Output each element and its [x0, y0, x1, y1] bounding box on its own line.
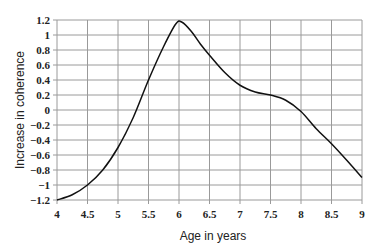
line-chart: 1.210.80.60.40.20−0.2−0.4−0.6−0.8−1−1.2 … — [0, 0, 381, 249]
y-tick-label: 0.6 — [36, 59, 50, 71]
x-tick-label: 6 — [176, 208, 182, 220]
y-tick-label: −1.2 — [30, 194, 51, 206]
x-tick-label: 7 — [237, 208, 243, 220]
y-tick-label: 0.2 — [36, 89, 50, 101]
y-axis-ticks: 1.210.80.60.40.20−0.2−0.4−0.6−0.8−1−1.2 — [30, 14, 51, 206]
x-tick-label: 5 — [115, 208, 121, 220]
x-tick-label: 7.5 — [264, 208, 278, 220]
x-tick-label: 6.5 — [203, 208, 217, 220]
y-tick-label: 1 — [45, 29, 51, 41]
y-tick-label: −0.2 — [30, 119, 51, 131]
y-axis-label: Increase in coherence — [13, 51, 27, 169]
y-tick-label: 0 — [45, 104, 51, 116]
x-tick-label: 5.5 — [142, 208, 156, 220]
y-tick-label: −0.8 — [30, 164, 51, 176]
x-tick-label: 8 — [298, 208, 304, 220]
y-tick-label: −0.4 — [30, 134, 51, 146]
y-tick-label: 0.8 — [36, 44, 50, 56]
x-tick-label: 4 — [54, 208, 60, 220]
y-tick-label: −0.6 — [30, 149, 51, 161]
y-tick-label: 1.2 — [36, 14, 50, 26]
x-tick-label: 8.5 — [325, 208, 339, 220]
y-tick-label: 0.4 — [36, 74, 50, 86]
grid-lines — [53, 20, 362, 204]
x-axis-ticks: 44.555.566.577.588.59 — [54, 208, 365, 220]
x-tick-label: 4.5 — [81, 208, 95, 220]
x-tick-label: 9 — [359, 208, 365, 220]
x-axis-label: Age in years — [180, 229, 247, 243]
y-tick-label: −1 — [38, 179, 50, 191]
